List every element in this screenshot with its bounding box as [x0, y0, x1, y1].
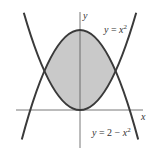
label-lower-exp: 2	[127, 126, 131, 134]
label-upper-eq: =	[108, 24, 119, 35]
label-upper-exp: 2	[124, 23, 128, 31]
x-axis-label: x	[141, 112, 145, 122]
region-between-curves-figure: y x y = x2 y = 2 − x2	[0, 0, 155, 152]
label-lower-eq: = 2 −	[96, 127, 122, 138]
figure-canvas	[0, 0, 155, 152]
label-upper-parabola: y = x2	[104, 24, 127, 35]
label-lower-parabola: y = 2 − x2	[92, 127, 131, 138]
y-axis-label: y	[83, 11, 87, 21]
